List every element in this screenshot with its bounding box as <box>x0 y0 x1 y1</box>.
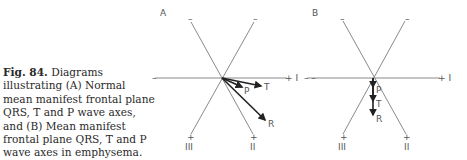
lead-ii-neg-label: – <box>340 14 345 24</box>
panel-a-label: A <box>160 8 167 18</box>
lead-iii-neg-label: – <box>253 14 258 24</box>
lead-ii-label: II <box>404 142 409 152</box>
lead-ii-pos-label: + <box>403 132 411 142</box>
lead-ii-neg-label: – <box>188 14 193 24</box>
lead-ii-label: II <box>250 142 255 152</box>
lead-i-pos-label: + I <box>285 73 298 83</box>
lead-i-neg-label: – <box>152 73 157 83</box>
r-vector-label: R <box>268 119 274 129</box>
r-vector <box>222 78 265 120</box>
lead-iii-pos-label: + <box>340 132 348 142</box>
axis-diagrams: A – + I – – + III + II T P R B – – + I –… <box>0 0 467 160</box>
p-vector-label: P <box>376 85 382 95</box>
lead-i-pos-label: + I <box>438 73 451 83</box>
t-vector-label: T <box>263 82 270 92</box>
t-vector-label: T <box>375 99 382 109</box>
r-vector-label: R <box>376 114 382 124</box>
lead-iii-label: III <box>338 142 346 152</box>
lead-iii-label: III <box>185 142 193 152</box>
lead-iii-pos-label: + <box>187 132 195 142</box>
p-vector-label: P <box>244 86 250 96</box>
panel-b: B – – + I – – + III + II P T R <box>304 8 451 152</box>
panel-a: A – + I – – + III + II T P R <box>152 8 298 152</box>
lead-i-neg-label: – – <box>304 73 316 83</box>
lead-ii-pos-label: + <box>250 132 258 142</box>
panel-b-label: B <box>312 8 318 18</box>
lead-iii-neg-label: – <box>405 14 410 24</box>
